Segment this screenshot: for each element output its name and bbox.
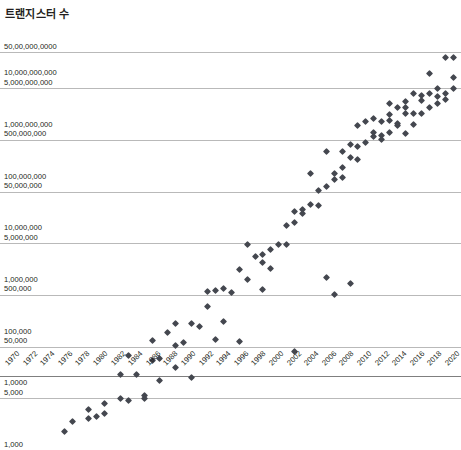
data-point — [93, 413, 100, 420]
data-point — [61, 428, 68, 435]
x-axis-tick-label: 2018 — [425, 349, 443, 367]
chart-title: 트랜지스터 수 — [5, 5, 69, 21]
y-axis-tick-label-line: 1,000,000 — [4, 275, 38, 285]
x-axis-tick-label: 1972 — [21, 349, 39, 367]
y-axis-tick-label-line: 50,000,000 — [4, 181, 46, 191]
y-axis-tick-label-line: 10,000,000 — [4, 223, 42, 233]
x-axis-tick-label: 2004 — [302, 349, 320, 367]
x-axis-tick-label: 1982 — [109, 349, 127, 367]
y-axis-tick-label: 1,000 — [4, 440, 23, 450]
data-point — [85, 406, 92, 413]
data-point — [101, 410, 108, 417]
y-axis-tick-label: 1,000,000500,000 — [4, 275, 38, 294]
x-axis-tick-label: 1976 — [56, 349, 74, 367]
x-axis-tick-label: 2002 — [285, 349, 303, 367]
y-axis-tick-label-line: 500,000,000 — [4, 129, 53, 139]
y-axis-tick-label: 100,00050,000 — [4, 327, 31, 346]
x-axis-tick-label: 1990 — [179, 349, 197, 367]
gridline — [0, 243, 461, 244]
gridline — [0, 347, 461, 348]
y-axis-tick-label-line: 1,000,000,000 — [4, 120, 53, 130]
x-axis-tick-label: 1978 — [73, 349, 91, 367]
x-axis-tick-label: 1970 — [3, 349, 21, 367]
x-axis-tick-label: 2012 — [373, 349, 391, 367]
x-axis-tick-label: 1974 — [38, 349, 56, 367]
gridline — [0, 140, 461, 141]
gridline — [0, 52, 461, 53]
y-axis-tick-label-line: 100,000 — [4, 327, 31, 337]
x-axis-tick-label: 1988 — [161, 349, 179, 367]
x-axis: 1970197219741976197819801982198419861988… — [0, 349, 461, 401]
x-axis-tick-label: 1984 — [126, 349, 144, 367]
y-axis-tick-label: 10,000,000,0005,000,000,000 — [4, 68, 57, 87]
x-axis-tick-label: 1994 — [214, 349, 232, 367]
y-axis-tick-label-line: 500,000 — [4, 284, 38, 294]
y-axis-tick-label-line: 50,00,000,0000 — [4, 42, 57, 52]
x-axis-tick-label: 1992 — [197, 349, 215, 367]
x-axis-tick-label: 2006 — [320, 349, 338, 367]
y-axis-tick-label: 100,000,00050,000,000 — [4, 172, 46, 191]
y-axis-tick-label-line: 5,000,000 — [4, 233, 42, 243]
plot-area: 50,00,000,000010,000,000,0005,000,000,00… — [0, 28, 461, 348]
y-axis-tick-label-line: 5,000,000,000 — [4, 78, 57, 88]
x-axis-tick-label: 1980 — [91, 349, 109, 367]
y-axis-tick-label: 10,000,0005,000,000 — [4, 223, 42, 242]
x-axis-tick-label: 1996 — [232, 349, 250, 367]
gridline — [0, 192, 461, 193]
gridline — [0, 295, 461, 296]
x-axis-tick-label: 1986 — [144, 349, 162, 367]
y-axis-tick-label: 1,000,000,000500,000,000 — [4, 120, 53, 139]
y-axis-tick-label-line: 50,000 — [4, 336, 31, 346]
data-point — [69, 418, 76, 425]
x-axis-tick-label: 2020 — [443, 349, 461, 367]
gridline — [0, 88, 461, 89]
y-axis-tick-label-line: 1,000 — [4, 440, 23, 450]
x-axis-tick-label: 2008 — [337, 349, 355, 367]
y-axis-tick-label-line: 10,000,000,000 — [4, 68, 57, 78]
x-axis-tick-label: 2016 — [408, 349, 426, 367]
x-axis-tick-label: 2010 — [355, 349, 373, 367]
y-axis-tick-label: 50,00,000,0000 — [4, 42, 57, 52]
x-axis-tick-label: 1998 — [249, 349, 267, 367]
x-axis-tick-label: 2000 — [267, 349, 285, 367]
data-point — [85, 415, 92, 422]
x-axis-tick-label: 2014 — [390, 349, 408, 367]
y-axis-tick-label-line: 100,000,000 — [4, 172, 46, 182]
